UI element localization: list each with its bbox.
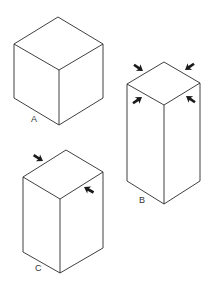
prism-c-sides: [23, 172, 103, 273]
arrow-icon: [132, 61, 146, 74]
label-b: B: [139, 195, 145, 205]
arrow-icon: [82, 184, 96, 196]
cube-a-sides: [14, 44, 103, 125]
arrow-icon: [183, 60, 197, 73]
prism-c: C: [23, 150, 103, 273]
arrow-icon: [32, 152, 46, 165]
diagram-canvas: A B C: [0, 0, 210, 285]
prism-b: B: [127, 60, 200, 205]
label-c: C: [35, 263, 42, 273]
arrow-icon: [131, 94, 145, 107]
arrow-icon: [184, 93, 198, 106]
label-a: A: [31, 114, 37, 124]
cube-a: A: [14, 17, 103, 125]
cube-a-top-face: [14, 17, 103, 70]
